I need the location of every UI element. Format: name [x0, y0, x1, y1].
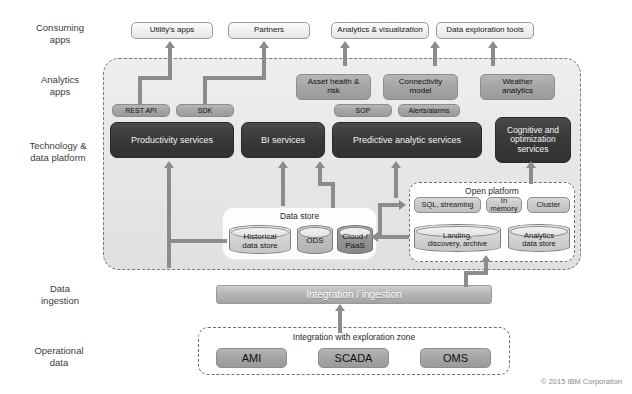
consuming-app-label: Analytics & visualization: [337, 26, 422, 35]
connector-data-exploration-right-vertical: [491, 48, 495, 66]
consuming-app-partners[interactable]: Partners: [228, 22, 310, 39]
service-predictive-analytic-services[interactable]: Predictive analytic services: [332, 122, 482, 158]
arrow-to-bi-services: [278, 161, 288, 168]
arrow-to-data-exploration-right: [488, 41, 498, 48]
data-store-ods[interactable]: ODS: [297, 225, 333, 254]
operational-source-label: SCADA: [335, 352, 373, 364]
integration-ingestion-bar[interactable]: Integration / ingestion: [216, 285, 492, 304]
operational-source-ami[interactable]: AMI: [216, 348, 287, 368]
open-platform-store-label: Analytics data store: [522, 228, 555, 249]
arrow-to-data-exploration-left: [430, 41, 440, 48]
operational-source-oms[interactable]: OMS: [420, 348, 491, 368]
arrow-to-open-platform: [399, 200, 406, 210]
connector-openplatform-to-datastore-vertical: [378, 219, 382, 239]
arrow-to-predictive-analytic-services-left: [315, 161, 325, 168]
architecture-diagram: Consuming apps Analytics apps Technology…: [0, 0, 632, 394]
arrow-to-productivity-services: [164, 161, 174, 168]
connector-bi-vertical: [281, 168, 285, 206]
connector-cognitive-vertical: [529, 168, 533, 184]
connector-predictive-left-vertical: [318, 168, 322, 186]
arrow-to-analytics-visualization: [340, 41, 350, 48]
open-platform-title: Open platform: [410, 186, 574, 196]
service-label: Cognitive and optimization services: [507, 126, 559, 155]
data-store-item-label: Cloud / PaaS: [342, 229, 367, 251]
connector-predictive-left-lower: [331, 186, 335, 208]
row-label-analytics-apps: Analytics apps: [18, 74, 102, 98]
interface-sop[interactable]: SOP: [334, 104, 392, 117]
consuming-app-utilitys-apps[interactable]: Utility's apps: [131, 22, 213, 39]
open-platform-engine-label: Cluster: [537, 201, 561, 209]
connector-predictive-right-vertical: [394, 168, 398, 198]
arrow-to-integration-ingestion: [335, 304, 345, 311]
connector-openplatform-to-datastore-horizontal: [382, 235, 409, 239]
service-label: BI services: [261, 135, 305, 145]
arrow-to-predictive-analytic-services-right: [391, 161, 401, 168]
interface-alerts-alarms[interactable]: Alerts/alarms: [398, 104, 460, 117]
arrow-to-cognitive-services: [526, 161, 536, 168]
copyright-footer: © 2015 IBM Corporation: [541, 377, 622, 386]
arrow-to-partners: [259, 41, 269, 48]
connector-exploration-to-ingestion-vertical: [338, 311, 342, 333]
exploration-zone-title: Integration with exploration zone: [199, 332, 509, 342]
service-label: Predictive analytic services: [353, 135, 461, 145]
open-platform-store-label: Landing, discovery, archive: [428, 228, 487, 249]
row-label-data-ingestion: Data ingestion: [18, 283, 102, 307]
interface-sdk[interactable]: SDK: [176, 104, 234, 117]
connector-partners-vertical: [262, 48, 266, 78]
consuming-app-data-exploration-tools[interactable]: Data exploration tools: [436, 22, 534, 39]
connector-data-exploration-left-vertical: [433, 48, 437, 66]
data-store-item-label: ODS: [306, 233, 323, 246]
operational-source-label: OMS: [443, 352, 468, 364]
open-platform-engine-in-memory[interactable]: In memory: [486, 197, 522, 213]
open-platform-store-landing-discovery-archive[interactable]: Landing, discovery, archive: [414, 224, 501, 252]
open-platform-engine-label: In memory: [490, 197, 517, 214]
connector-sdk-horizontal: [203, 76, 266, 80]
analytics-app-label: Connectivity model: [399, 78, 443, 96]
open-platform-store-analytics-data-store[interactable]: Analytics data store: [508, 224, 570, 252]
row-label-consuming-apps: Consuming apps: [18, 22, 102, 46]
data-store-cloud-paas[interactable]: Cloud / PaaS: [337, 225, 373, 254]
operational-source-scada[interactable]: SCADA: [318, 348, 389, 368]
analytics-app-label: Weather analytics: [502, 78, 533, 96]
open-platform-engine-sql-streaming[interactable]: SQL, streaming: [414, 197, 481, 213]
connector-rest-api-horizontal: [138, 76, 172, 80]
connector-ingestion-to-openplatform-vertical: [484, 262, 488, 275]
service-label: Productivity services: [131, 135, 213, 145]
integration-ingestion-label: Integration / ingestion: [306, 289, 402, 300]
interface-label: Alerts/alarms: [409, 107, 450, 115]
connector-productivity-horizontal: [167, 239, 227, 243]
data-store-historical-data-store[interactable]: Historical data store: [229, 225, 291, 254]
service-cognitive-optimization-services[interactable]: Cognitive and optimization services: [495, 117, 571, 163]
analytics-app-label: Asset health & risk: [308, 78, 360, 96]
interface-rest-api[interactable]: REST API: [112, 104, 170, 117]
connector-productivity-vertical: [167, 168, 171, 248]
analytics-app-asset-health-risk[interactable]: Asset health & risk: [296, 74, 371, 100]
interface-label: SOP: [356, 107, 371, 115]
connector-utilitys-apps-vertical: [168, 48, 172, 78]
analytics-app-connectivity-model[interactable]: Connectivity model: [383, 74, 458, 100]
operational-source-label: AMI: [242, 352, 262, 364]
analytics-app-weather-analytics[interactable]: Weather analytics: [480, 74, 555, 100]
service-productivity-services[interactable]: Productivity services: [110, 122, 234, 158]
connector-analytics-visualization-vertical: [343, 48, 347, 66]
interface-label: SDK: [198, 107, 212, 115]
connector-sdk-vertical: [203, 76, 207, 104]
connector-rest-api-vertical: [138, 76, 142, 104]
arrow-to-open-platform-from-ingestion: [481, 255, 491, 262]
data-store-title: Data store: [223, 211, 376, 221]
data-store-item-label: Historical data store: [242, 229, 278, 251]
service-bi-services[interactable]: BI services: [241, 122, 325, 158]
row-label-technology-data-platform: Technology & data platform: [10, 140, 106, 164]
arrow-to-utilitys-apps: [165, 41, 175, 48]
open-platform-engine-cluster[interactable]: Cluster: [527, 197, 570, 213]
open-platform-engine-label: SQL, streaming: [421, 201, 473, 209]
consuming-app-label: Data exploration tools: [446, 26, 523, 35]
row-label-operational-data: Operational data: [12, 345, 106, 369]
consuming-app-analytics-visualization[interactable]: Analytics & visualization: [331, 22, 429, 39]
arrow-to-data-store: [371, 232, 378, 242]
interface-label: REST API: [125, 107, 156, 115]
consuming-app-label: Utility's apps: [150, 26, 195, 35]
consuming-app-label: Partners: [254, 26, 284, 35]
